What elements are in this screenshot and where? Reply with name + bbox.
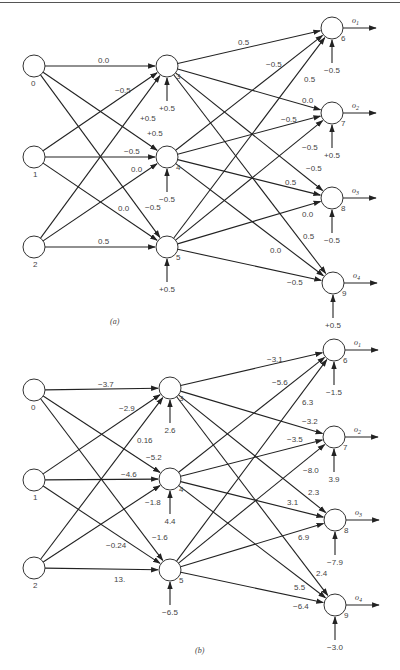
weight-label: −0.5 [124, 147, 140, 156]
output-label: o2 [354, 425, 361, 435]
biases-b: 2.64.4−6.5−1.53.9−7.9−3.0 [162, 362, 343, 652]
weight-label: 0.0 [270, 246, 282, 255]
bias-label: −3.0 [327, 643, 343, 652]
node-id-label: 6 [341, 34, 346, 43]
edge-4-8 [181, 482, 324, 517]
node-id-label: 0 [31, 403, 36, 412]
weight-label: 0.0 [302, 210, 314, 219]
node-7 [321, 102, 343, 124]
node-id-label: 5 [176, 253, 181, 262]
node-8 [321, 187, 343, 209]
bias-label: +0.5 [324, 151, 340, 160]
node-id-label: 4 [176, 163, 181, 172]
node-id-label: 3 [179, 394, 184, 403]
weight-label: −0.5 [145, 203, 161, 212]
bias-label: −1.5 [326, 388, 342, 397]
weight-label: 0.0 [118, 204, 130, 213]
node-3 [159, 377, 181, 399]
weight-label: −0.5 [302, 143, 318, 152]
edge-4-8 [178, 160, 321, 195]
weight-label: −0.5 [306, 164, 322, 173]
node-id-label: 0 [31, 79, 36, 88]
bias-label: +0.5 [325, 321, 341, 330]
node-id-label: 6 [343, 356, 348, 365]
weight-label: −0.5 [287, 278, 303, 287]
node-id-label: 2 [33, 581, 38, 590]
node-5 [156, 236, 178, 258]
edge-5-9 [178, 249, 322, 280]
node-9 [324, 594, 346, 616]
node-id-label: 1 [33, 493, 38, 502]
edges-b [41, 353, 328, 603]
edges-a [41, 31, 326, 281]
output-label: o1 [354, 338, 361, 348]
node-8 [324, 509, 346, 531]
bias-label: −0.5 [159, 195, 175, 204]
weight-label: −0.5 [115, 86, 131, 95]
weight-label: +0.5 [140, 114, 156, 123]
weight-label: −1.6 [152, 533, 168, 542]
edge-4-7 [181, 440, 323, 476]
edge-3-6 [181, 353, 323, 386]
bias-label: −0.5 [324, 66, 340, 75]
weight-label: 2.3 [308, 488, 320, 497]
weight-label: 5.5 [294, 583, 306, 592]
node-id-label: 4 [179, 485, 184, 494]
weight-label: 0.5 [98, 237, 110, 246]
weight-label: 0.5 [303, 232, 315, 241]
node-1 [23, 146, 45, 168]
edge-2-3 [41, 398, 163, 560]
weight-label: −8.0 [303, 466, 319, 475]
diagram-b: 2.64.4−6.5−1.53.9−7.9−3.0 o1o2o3o4 01234… [23, 338, 379, 655]
bias-label: −7.9 [327, 558, 343, 567]
node-5 [159, 559, 181, 581]
bias-label: −6.5 [162, 608, 178, 617]
node-4 [159, 468, 181, 490]
neural-network-diagrams: +0.5−0.5+0.5−0.5+0.5−0.5+0.5 o1o2o3o4 01… [0, 0, 400, 670]
output-label: o4 [355, 593, 362, 603]
caption-b: (b) [195, 646, 205, 655]
edge-4-6 [176, 35, 323, 150]
node-2 [23, 236, 45, 258]
node-id-label: 8 [341, 204, 346, 213]
weight-label: −0.24 [106, 541, 127, 550]
caption-a: (a) [110, 317, 120, 326]
weight-label: −3.2 [302, 417, 318, 426]
weight-label: −0.5 [266, 60, 282, 69]
weight-label: −3.5 [287, 435, 303, 444]
outputs-b: o1o2o3o4 [345, 338, 379, 605]
node-9 [322, 272, 344, 294]
node-0 [23, 379, 45, 401]
node-id-label: 3 [176, 72, 181, 81]
weight-label: −0.5 [281, 115, 297, 124]
output-label: o1 [352, 16, 359, 26]
node-id-label: 1 [33, 170, 38, 179]
edge-3-7 [178, 69, 321, 110]
weight-label: +0.5 [147, 129, 163, 138]
node-6 [323, 339, 345, 361]
weight-label: 0.0 [302, 96, 314, 105]
weight-label: −5.2 [146, 453, 162, 462]
edge-5-8 [178, 201, 321, 243]
node-6 [321, 17, 343, 39]
weight-label: 0.5 [304, 75, 316, 84]
weight-label: −3.7 [98, 380, 114, 389]
weight-label: −3.1 [267, 355, 283, 364]
weight-label: −2.9 [119, 404, 135, 413]
node-id-label: 5 [179, 576, 184, 585]
output-label: o3 [352, 186, 359, 196]
weight-label: −6.4 [293, 602, 309, 611]
output-label: o2 [352, 101, 359, 111]
node-0 [23, 55, 45, 77]
weight-label: 2.4 [316, 569, 328, 578]
weight-label: 3.1 [287, 498, 299, 507]
bias-label: 2.6 [164, 426, 176, 435]
weight-label: 0.16 [137, 436, 153, 445]
bias-label: −0.5 [324, 236, 340, 245]
node-1 [23, 469, 45, 491]
weight-label: −4.6 [121, 470, 137, 479]
output-label: o4 [353, 271, 360, 281]
output-label: o3 [355, 508, 362, 518]
node-id-label: 2 [33, 260, 38, 269]
weight-label: 0.0 [131, 165, 143, 174]
